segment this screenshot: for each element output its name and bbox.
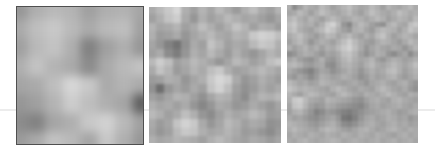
noise-cell <box>207 136 216 143</box>
noise-cell <box>241 40 250 49</box>
noise-cell <box>173 75 182 84</box>
noise-cell <box>215 93 224 102</box>
noise-cell <box>63 113 81 132</box>
noise-grid <box>287 5 418 143</box>
noise-cell <box>207 110 216 119</box>
noise-cell <box>249 14 258 23</box>
noise-cell <box>275 14 282 23</box>
noise-cell <box>198 136 207 143</box>
noise-cell <box>98 38 116 57</box>
noise-cell <box>45 57 63 76</box>
noise-cell <box>224 101 233 110</box>
noise-cell <box>215 7 224 14</box>
noise-cell <box>173 14 182 23</box>
noise-cell <box>198 7 207 14</box>
noise-cell <box>181 7 190 14</box>
noise-cell <box>164 119 173 128</box>
noise-cell <box>207 23 216 32</box>
noise-cell <box>207 31 216 40</box>
noise-cell <box>224 93 233 102</box>
noise-cell <box>249 119 258 128</box>
noise-cell <box>173 136 182 143</box>
noise-cell <box>28 113 46 132</box>
noise-cell <box>16 76 28 95</box>
noise-cell <box>215 119 224 128</box>
noise-cell <box>156 23 165 32</box>
noise-cell <box>181 31 190 40</box>
noise-cell <box>241 14 250 23</box>
noise-cell <box>266 40 275 49</box>
noise-cell <box>266 101 275 110</box>
noise-cell <box>224 75 233 84</box>
noise-cell <box>164 136 173 143</box>
noise-cell <box>164 75 173 84</box>
noise-cell <box>224 49 233 58</box>
noise-cell <box>164 7 173 14</box>
noise-cell <box>249 58 258 67</box>
noise-cell <box>224 31 233 40</box>
noise-cell <box>258 75 267 84</box>
noise-cell <box>173 49 182 58</box>
noise-cell <box>241 101 250 110</box>
noise-cell <box>241 84 250 93</box>
noise-cell <box>63 76 81 95</box>
noise-cell <box>98 113 116 132</box>
noise-cell <box>181 136 190 143</box>
noise-cell <box>198 101 207 110</box>
noise-cell <box>63 19 81 38</box>
noise-cell <box>198 23 207 32</box>
noise-cell <box>156 93 165 102</box>
noise-cell <box>190 23 199 32</box>
noise-cell <box>156 128 165 137</box>
noise-cell <box>164 14 173 23</box>
noise-cell <box>115 6 133 19</box>
noise-cell <box>215 101 224 110</box>
noise-cell <box>80 94 98 113</box>
noise-cell <box>173 84 182 93</box>
noise-cell <box>164 110 173 119</box>
noise-cell <box>241 119 250 128</box>
noise-cell <box>258 49 267 58</box>
noise-cell <box>45 38 63 57</box>
noise-cell <box>181 84 190 93</box>
noise-cell <box>16 113 28 132</box>
noise-cell <box>275 119 282 128</box>
noise-cell <box>215 14 224 23</box>
noise-cell <box>173 110 182 119</box>
noise-cell <box>258 23 267 32</box>
noise-cell <box>63 57 81 76</box>
noise-cell <box>173 31 182 40</box>
noise-cell <box>198 66 207 75</box>
noise-cell <box>164 84 173 93</box>
noise-cell <box>164 31 173 40</box>
noise-cell <box>249 84 258 93</box>
noise-cell <box>173 58 182 67</box>
noise-cell <box>198 93 207 102</box>
noise-cell <box>16 19 28 38</box>
noise-cell <box>173 93 182 102</box>
noise-cell <box>258 110 267 119</box>
noise-cell <box>232 58 241 67</box>
noise-cell <box>173 66 182 75</box>
noise-cell <box>275 110 282 119</box>
noise-cell <box>133 76 145 95</box>
noise-cell <box>207 49 216 58</box>
noise-cell <box>258 31 267 40</box>
noise-cell <box>275 7 282 14</box>
noise-cell <box>241 23 250 32</box>
noise-cell <box>133 113 145 132</box>
noise-cell <box>164 66 173 75</box>
noise-cell <box>181 93 190 102</box>
noise-cell <box>181 58 190 67</box>
noise-cell <box>198 119 207 128</box>
noise-cell <box>156 110 165 119</box>
noise-cell <box>98 6 116 19</box>
noise-cell <box>28 6 46 19</box>
noise-cell <box>241 128 250 137</box>
noise-cell <box>198 40 207 49</box>
noise-cell <box>190 119 199 128</box>
noise-cell <box>232 40 241 49</box>
noise-cell <box>181 128 190 137</box>
noise-cell <box>232 14 241 23</box>
noise-cell <box>164 23 173 32</box>
